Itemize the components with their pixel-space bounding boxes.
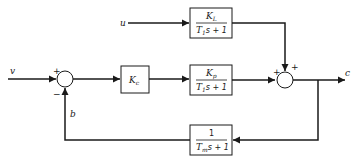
process-block: Kp T1s + 1 — [190, 65, 232, 95]
measurement-block: 1 Tms + 1 — [190, 125, 232, 155]
block-diagram: v + − Kc Kp T1s + 1 u KL — [0, 0, 351, 162]
sign-plus-left: + — [53, 66, 61, 76]
sign-plus-right-left: + — [273, 67, 281, 77]
svg-text:1: 1 — [209, 129, 214, 138]
sign-plus-right-top: + — [291, 62, 299, 72]
svg-text:T1s + 1: T1s + 1 — [196, 25, 227, 36]
wire-feedback-branch — [233, 80, 318, 140]
controller-block: Kc — [121, 66, 149, 93]
label-c: c — [345, 68, 350, 78]
input-signal-v: v — [8, 66, 56, 79]
output-signal-c: c — [293, 68, 350, 80]
wire-load-output — [232, 23, 285, 71]
summing-junction-right: + + — [273, 62, 299, 88]
summing-junction-left: + − — [53, 66, 73, 99]
load-block: KL T1s + 1 — [190, 8, 232, 38]
feedback-signal-b: b — [65, 88, 190, 140]
sign-minus-left: − — [53, 89, 61, 99]
label-b: b — [70, 109, 76, 119]
svg-text:Tms + 1: Tms + 1 — [196, 142, 229, 153]
svg-text:T1s + 1: T1s + 1 — [196, 82, 227, 93]
label-u: u — [120, 18, 126, 28]
disturbance-signal-u: u — [120, 18, 189, 28]
label-v: v — [10, 66, 15, 76]
